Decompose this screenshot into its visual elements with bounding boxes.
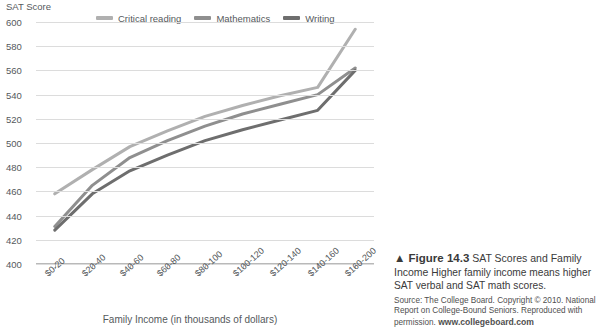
legend-swatch-icon bbox=[283, 16, 300, 20]
y-axis-label: 540 bbox=[6, 89, 32, 100]
gridline bbox=[36, 191, 374, 192]
x-axis-title: Family Income (in thousands of dollars) bbox=[0, 314, 380, 325]
legend-swatch-icon bbox=[194, 16, 211, 20]
figure-number: ▲ Figure 14.3 bbox=[394, 252, 469, 264]
y-axis-title: SAT Score bbox=[6, 1, 51, 12]
gridline bbox=[36, 95, 374, 96]
y-axis-label: 580 bbox=[6, 41, 32, 52]
figure-14-3: SAT Score Critical readingMathematicsWri… bbox=[0, 0, 608, 332]
figure-label-text: Figure 14.3 bbox=[409, 252, 470, 264]
y-axis-label: 400 bbox=[6, 259, 32, 270]
gridline bbox=[36, 22, 374, 23]
gridline bbox=[36, 216, 374, 217]
y-axis-label: 460 bbox=[6, 186, 32, 197]
caption-title: ▲ Figure 14.3 SAT Scores and Family Inco… bbox=[394, 252, 604, 293]
y-axis-label: 440 bbox=[6, 210, 32, 221]
gridline bbox=[36, 143, 374, 144]
y-axis-label: 480 bbox=[6, 162, 32, 173]
caption-source: Source: The College Board. Copyright © 2… bbox=[394, 296, 604, 329]
gridline bbox=[36, 119, 374, 120]
figure-caption: ▲ Figure 14.3 SAT Scores and Family Inco… bbox=[394, 252, 604, 328]
source-website: www.collegeboard.com bbox=[438, 317, 534, 327]
series-line-1 bbox=[55, 68, 355, 227]
gridline bbox=[36, 167, 374, 168]
gridline bbox=[36, 240, 374, 241]
gridline bbox=[36, 70, 374, 71]
y-axis-label: 520 bbox=[6, 113, 32, 124]
legend-swatch-icon bbox=[96, 16, 113, 20]
y-axis-label: 500 bbox=[6, 138, 32, 149]
y-axis-label: 420 bbox=[6, 234, 32, 245]
triangle-icon: ▲ bbox=[394, 252, 405, 264]
chart-panel: SAT Score Critical readingMathematicsWri… bbox=[0, 0, 380, 332]
plot-area bbox=[36, 22, 374, 264]
gridline bbox=[36, 46, 374, 47]
y-axis-label: 560 bbox=[6, 65, 32, 76]
y-axis-label: 600 bbox=[6, 17, 32, 28]
